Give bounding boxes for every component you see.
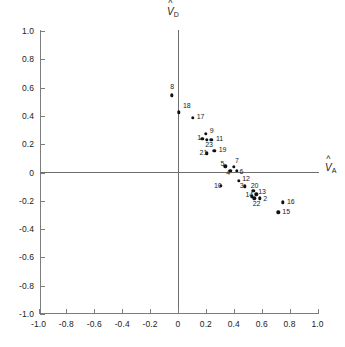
data-point-label: 8 <box>170 83 174 90</box>
data-point-label: 10 <box>214 182 222 189</box>
y-tick-label: 0.4 <box>0 111 34 121</box>
data-point-label: 19 <box>219 146 227 153</box>
data-point <box>170 94 173 97</box>
x-tick-label: 0.4 <box>219 319 249 329</box>
y-tick-mark <box>40 173 45 174</box>
data-point-label: 7 <box>235 157 239 164</box>
data-point <box>232 165 235 168</box>
data-point-label: 13 <box>258 188 266 195</box>
data-point <box>177 111 180 114</box>
data-point <box>204 132 207 135</box>
y-tick-label: -1.0 <box>0 309 34 319</box>
data-point <box>191 116 194 119</box>
data-point-label: 5 <box>221 160 225 167</box>
data-point-label: 4 <box>226 169 230 176</box>
y-tick-mark <box>40 116 45 117</box>
data-point-label: 2 <box>263 195 267 202</box>
x-axis-title-sub: A <box>332 167 337 174</box>
data-point-label: 17 <box>197 113 205 120</box>
x-tick-label: -0.4 <box>107 319 137 329</box>
x-tick-label: 0 <box>163 319 193 329</box>
data-point <box>201 137 204 140</box>
x-tick-mark <box>39 309 40 314</box>
x-tick-mark <box>94 309 95 314</box>
y-axis-title: ^VD <box>167 6 179 18</box>
data-point-label: 23 <box>205 141 213 148</box>
x-tick-mark <box>206 309 207 314</box>
y-tick-label: -0.8 <box>0 281 34 291</box>
y-tick-label: 0.8 <box>0 54 34 64</box>
x-tick-mark <box>178 309 179 314</box>
data-point-label: 16 <box>287 198 295 205</box>
data-point-label: 11 <box>216 135 223 142</box>
data-point <box>281 201 284 204</box>
y-tick-label: 0.6 <box>0 83 34 93</box>
x-axis-line <box>40 172 319 173</box>
y-tick-mark <box>40 144 45 145</box>
data-point <box>276 211 279 214</box>
data-point-label: 15 <box>282 208 290 215</box>
y-tick-label: -0.4 <box>0 224 34 234</box>
y-axis-hat-icon: ^ <box>168 0 172 8</box>
x-tick-mark <box>290 309 291 314</box>
y-tick-mark <box>40 314 45 315</box>
y-tick-mark <box>40 88 45 89</box>
x-tick-mark <box>66 309 67 314</box>
x-tick-mark <box>122 309 123 314</box>
x-tick-label: 0.6 <box>247 319 277 329</box>
y-tick-mark <box>40 257 45 258</box>
x-tick-mark <box>318 309 319 314</box>
x-tick-label: 0.2 <box>191 319 221 329</box>
x-axis-hat-icon: ^ <box>326 155 330 164</box>
y-axis-line <box>178 30 179 314</box>
data-point-label: 18 <box>183 102 191 109</box>
x-tick-label: -0.8 <box>51 319 81 329</box>
x-tick-label: -1.0 <box>24 319 54 329</box>
data-point-label: 21 <box>200 149 208 156</box>
x-tick-mark <box>234 309 235 314</box>
data-point-label: 6 <box>239 168 243 175</box>
x-tick-label: 0.8 <box>275 319 305 329</box>
x-tick-label: -0.6 <box>79 319 109 329</box>
data-point-label: 9 <box>210 127 214 134</box>
x-tick-mark <box>150 309 151 314</box>
data-point-label: 1 <box>197 134 201 141</box>
y-axis-title-sub: D <box>174 11 179 18</box>
y-tick-mark <box>40 286 45 287</box>
y-tick-mark <box>40 201 45 202</box>
y-tick-label: 0 <box>0 168 34 178</box>
data-point-label: 12 <box>242 175 250 182</box>
x-axis-title: ^VA <box>325 162 336 174</box>
x-tick-mark <box>262 309 263 314</box>
data-point-label: 22 <box>253 200 261 207</box>
y-tick-mark <box>40 59 45 60</box>
x-tick-label: -0.2 <box>135 319 165 329</box>
plot-frame-bottom <box>40 313 319 314</box>
scatter-plot: ^VD ^VA 1.00.80.60.40.20-0.2-0.4-0.6-0.8… <box>0 0 345 347</box>
x-tick-label: 1.0 <box>303 319 333 329</box>
data-point-label: 3 <box>240 182 244 189</box>
y-tick-label: 0.2 <box>0 139 34 149</box>
data-point <box>213 149 216 152</box>
y-tick-label: 1.0 <box>0 26 34 36</box>
y-tick-label: -0.2 <box>0 196 34 206</box>
y-tick-mark <box>40 229 45 230</box>
y-tick-mark <box>40 31 45 32</box>
y-tick-label: -0.6 <box>0 252 34 262</box>
